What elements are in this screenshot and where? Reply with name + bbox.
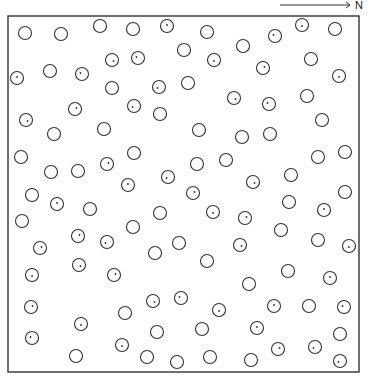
circle-marker <box>343 240 356 253</box>
circle-marker <box>108 269 121 282</box>
inner-dot-icon <box>80 324 82 326</box>
circle-marker <box>312 234 325 247</box>
circle-marker <box>187 187 200 200</box>
circle-marker <box>147 295 160 308</box>
inner-dot-icon <box>27 120 29 122</box>
circle-marker <box>128 147 141 160</box>
circle-marker <box>154 207 167 220</box>
circle-marker <box>263 98 276 111</box>
circle-marker <box>149 247 162 260</box>
inner-dot-icon <box>254 182 256 184</box>
circle-marker <box>76 68 89 81</box>
circle-marker <box>275 224 288 237</box>
north-label: N <box>355 0 363 11</box>
circle-marker <box>220 154 233 167</box>
circle-marker <box>334 328 347 341</box>
circle-marker <box>26 332 39 345</box>
circle-marker <box>329 23 342 36</box>
inner-dot-icon <box>301 25 303 27</box>
circle-marker <box>70 350 83 363</box>
inner-dot-icon <box>194 191 196 193</box>
circle-marker <box>182 77 195 90</box>
circle-marker <box>339 186 352 199</box>
inner-dot-icon <box>256 326 258 328</box>
circle-marker <box>132 52 145 65</box>
circle-marker <box>178 44 191 57</box>
inner-dot-icon <box>31 275 33 277</box>
circle-marker <box>73 259 86 272</box>
circle-marker <box>309 341 322 354</box>
inner-dot-icon <box>338 76 340 78</box>
inner-dot-icon <box>273 34 275 36</box>
inner-dot-icon <box>154 301 156 303</box>
circle-marker <box>141 351 154 364</box>
circle-marker <box>106 54 119 67</box>
circle-marker <box>151 326 164 339</box>
inner-dot-icon <box>121 345 123 347</box>
circle-marker <box>48 128 61 141</box>
circle-marker <box>268 300 281 313</box>
circle-marker <box>26 189 39 202</box>
inner-dot-icon <box>329 276 331 278</box>
circle-marker <box>116 339 129 352</box>
circle-marker <box>208 54 221 67</box>
inner-dot-icon <box>273 304 275 306</box>
inner-dot-icon <box>30 336 32 338</box>
circle-marker <box>16 215 29 228</box>
inner-dot-icon <box>241 245 243 247</box>
circle-marker <box>45 166 58 179</box>
circle-marker <box>19 27 32 40</box>
circle-marker <box>106 82 119 95</box>
inner-dot-icon <box>108 162 110 164</box>
circle-marker <box>75 318 88 331</box>
circle-marker <box>161 20 174 33</box>
inner-dot-icon <box>279 347 281 349</box>
circle-marker <box>207 206 220 219</box>
circle-marker <box>84 203 97 216</box>
circle-marker <box>72 165 85 178</box>
circle-marker <box>257 62 270 75</box>
inner-dot-icon <box>179 296 181 298</box>
inner-dot-icon <box>212 212 214 214</box>
circle-markers <box>11 19 356 369</box>
circle-marker <box>127 221 140 234</box>
circle-marker <box>272 343 285 356</box>
inner-dot-icon <box>235 98 237 100</box>
inner-dot-icon <box>157 87 159 89</box>
circle-marker <box>128 100 141 113</box>
circle-marker <box>196 323 209 336</box>
circle-marker <box>173 237 186 250</box>
circle-marker <box>51 198 64 211</box>
circle-marker <box>228 92 241 105</box>
inner-dot-icon <box>113 60 115 62</box>
inner-dot-icon <box>264 66 266 68</box>
inner-dot-icon <box>136 56 138 58</box>
circle-marker <box>324 272 337 285</box>
circle-marker <box>119 307 132 320</box>
inner-dot-icon <box>246 216 248 218</box>
circle-marker <box>239 212 252 225</box>
inner-dot-icon <box>166 177 168 179</box>
circle-marker <box>333 70 346 83</box>
circle-marker <box>234 239 247 252</box>
circle-marker <box>251 322 264 335</box>
inner-dot-icon <box>56 202 58 204</box>
plot-frame <box>8 16 359 372</box>
inner-dot-icon <box>342 305 344 307</box>
circle-marker <box>269 30 282 43</box>
circle-marker <box>153 81 166 94</box>
circle-marker <box>247 176 260 189</box>
inner-dot-icon <box>105 242 107 244</box>
circle-marker <box>72 230 85 243</box>
circle-marker <box>237 40 250 53</box>
inner-dot-icon <box>348 246 350 248</box>
circle-marker <box>34 242 47 255</box>
circle-marker <box>334 355 347 368</box>
circle-marker <box>69 103 82 116</box>
circle-marker <box>285 169 298 182</box>
inner-dot-icon <box>80 265 82 267</box>
circle-marker <box>204 351 217 364</box>
inner-dot-icon <box>32 305 34 307</box>
circle-marker <box>213 304 226 317</box>
circle-marker <box>101 236 114 249</box>
